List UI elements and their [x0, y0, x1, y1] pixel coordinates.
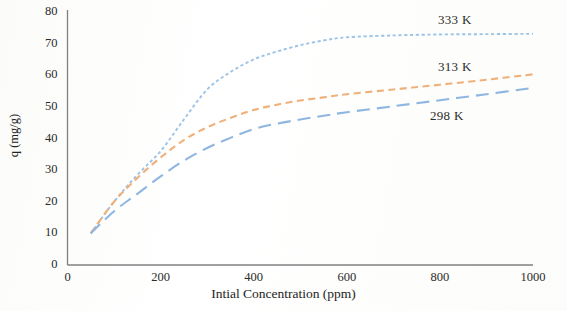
x-tick-label: 400	[234, 270, 274, 285]
y-axis-title: q (mg/g)	[7, 96, 22, 176]
x-axis-title: Intial Concentration (ppm)	[0, 286, 567, 302]
x-tick-label: 200	[141, 270, 181, 285]
y-tick-label: 10	[32, 225, 58, 240]
plot-canvas	[0, 0, 567, 311]
y-tick-label: 70	[32, 36, 58, 51]
series-label-298k: 298 K	[430, 108, 464, 124]
axes-group	[68, 10, 534, 265]
y-tick-label: 80	[32, 4, 58, 19]
isotherm-chart-figure: 0 10 20 30 40 50 60 70 80 0 200 400 600 …	[0, 0, 567, 311]
y-tick-label: 50	[32, 99, 58, 114]
series-label-333k: 333 K	[438, 12, 472, 28]
x-tick-label: 1000	[513, 270, 553, 285]
y-tick-label: 20	[32, 194, 58, 209]
x-tick-label: 600	[327, 270, 367, 285]
y-tick-label: 40	[32, 131, 58, 146]
y-tick-label: 60	[32, 67, 58, 82]
x-tick-label: 800	[420, 270, 460, 285]
series-line-313k	[91, 74, 533, 233]
y-tick-label: 30	[32, 162, 58, 177]
x-tick-label: 0	[48, 270, 88, 285]
series-label-313k: 313 K	[438, 59, 472, 75]
